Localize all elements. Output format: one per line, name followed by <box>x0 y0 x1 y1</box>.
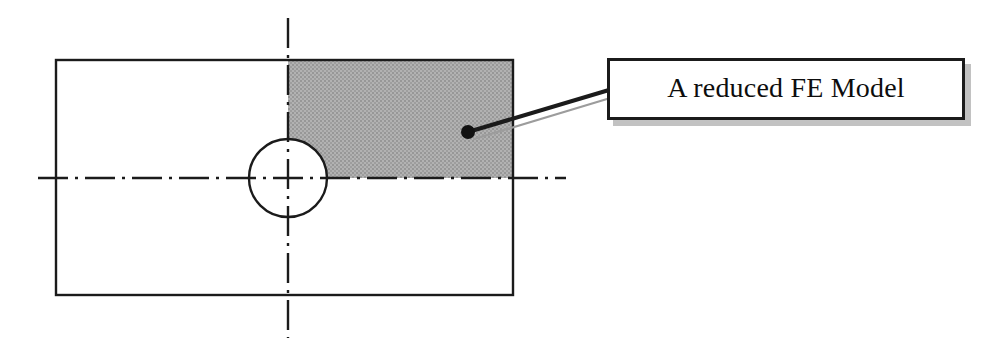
figure-canvas: A reduced FE Model <box>0 0 994 349</box>
callout-box[interactable]: A reduced FE Model <box>607 58 965 120</box>
callout-label: A reduced FE Model <box>667 74 905 104</box>
plate-diagram <box>0 0 994 349</box>
callout-anchor-dot <box>461 125 475 139</box>
